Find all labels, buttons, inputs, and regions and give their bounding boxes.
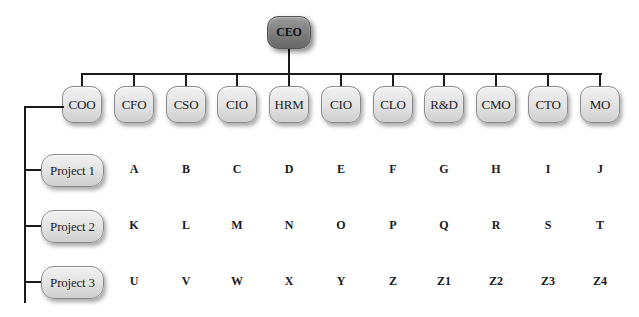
executive-node[interactable]: CFO (114, 86, 154, 123)
project-label: Project 3 (50, 275, 95, 291)
executive-label: MO (590, 97, 611, 113)
assignment-cell: Z (378, 274, 408, 289)
executive-node[interactable]: CTO (528, 86, 568, 123)
executive-label: CLO (380, 97, 405, 113)
executive-node[interactable]: COO (62, 86, 102, 123)
assignment-cell: R (481, 218, 511, 233)
executive-connector (547, 73, 549, 87)
executive-connector (340, 73, 342, 87)
executive-label: CFO (122, 97, 147, 113)
assignment-cell: D (274, 162, 304, 177)
project-node[interactable]: Project 3 (41, 266, 104, 299)
coo-to-spine-line (24, 106, 64, 108)
executive-node[interactable]: R&D (424, 86, 464, 123)
assignment-cell: K (119, 218, 149, 233)
assignment-cell: Y (326, 274, 356, 289)
project-connector (24, 225, 42, 227)
assignment-cell: E (326, 162, 356, 177)
assignment-cell: B (171, 162, 201, 177)
project-node[interactable]: Project 2 (41, 210, 104, 243)
executive-node[interactable]: HRM (269, 86, 309, 123)
assignment-cell: O (326, 218, 356, 233)
assignment-cell: X (274, 274, 304, 289)
assignment-cell: M (222, 218, 252, 233)
executive-label: CSO (174, 97, 199, 113)
assignment-cell: H (481, 162, 511, 177)
executive-label: COO (69, 97, 96, 113)
project-connector (24, 281, 42, 283)
executive-node[interactable]: CSO (166, 86, 206, 123)
assignment-cell: J (585, 162, 615, 177)
assignment-cell: Q (429, 218, 459, 233)
assignment-cell: N (274, 218, 304, 233)
executive-label: CIO (226, 97, 248, 113)
executive-label: CMO (481, 97, 510, 113)
executive-node[interactable]: CIO (217, 86, 257, 123)
executive-label: HRM (274, 97, 303, 113)
assignment-cell: P (378, 218, 408, 233)
executive-connector (133, 73, 135, 87)
assignment-cell: L (171, 218, 201, 233)
assignment-cell: U (119, 274, 149, 289)
executive-label: R&D (430, 97, 458, 113)
executive-connector (599, 73, 601, 87)
executive-node[interactable]: CMO (476, 86, 516, 123)
assignment-cell: T (585, 218, 615, 233)
assignment-cell: V (171, 274, 201, 289)
assignment-cell: Z2 (481, 274, 511, 289)
assignment-cell: Z3 (533, 274, 563, 289)
assignment-cell: I (533, 162, 563, 177)
assignment-cell: C (222, 162, 252, 177)
assignment-cell: F (378, 162, 408, 177)
executive-connector (288, 73, 290, 87)
executive-node[interactable]: CIO (321, 86, 361, 123)
executive-label: CTO (535, 97, 560, 113)
executive-connector (81, 73, 83, 87)
ceo-connector (288, 48, 290, 75)
assignment-cell: Z4 (585, 274, 615, 289)
executive-label: CIO (330, 97, 352, 113)
assignment-cell: A (119, 162, 149, 177)
project-spine-line (24, 106, 26, 303)
executive-connector (443, 73, 445, 87)
project-connector (24, 169, 42, 171)
executive-node[interactable]: MO (580, 86, 620, 123)
executive-connector (236, 73, 238, 87)
executive-connector (495, 73, 497, 87)
assignment-cell: S (533, 218, 563, 233)
assignment-cell: G (429, 162, 459, 177)
project-label: Project 2 (50, 219, 95, 235)
assignment-cell: W (222, 274, 252, 289)
executive-connector (185, 73, 187, 87)
executive-connector (392, 73, 394, 87)
assignment-cell: Z1 (429, 274, 459, 289)
executive-node[interactable]: CLO (373, 86, 413, 123)
ceo-label: CEO (276, 25, 301, 40)
ceo-node[interactable]: CEO (267, 16, 311, 49)
project-node[interactable]: Project 1 (41, 154, 104, 187)
project-label: Project 1 (50, 163, 95, 179)
